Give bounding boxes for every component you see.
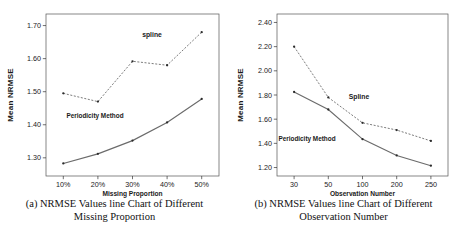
series-point-marker [97,100,99,102]
y-axis-tick-label: 1.20 [258,163,272,172]
series-point-marker [361,138,363,140]
x-axis-tick-label: 40% [160,180,175,189]
series-point-marker [396,129,398,131]
x-axis-tick-label: 250 [425,180,437,189]
series-point-marker [201,31,203,33]
y-axis-tick-label: 1.80 [258,91,272,100]
x-axis-tick-label: 30 [290,180,298,189]
y-axis-tick-label: 2.40 [258,18,272,27]
series-point-marker [201,98,203,100]
x-axis-tick-label: 30% [125,180,140,189]
series-line-2 [63,99,201,163]
x-axis-tick-label: 200 [391,180,403,189]
chart-b-caption-line2: Observation Number [229,211,458,224]
figure-two-panel-line-charts: 1.301.401.501.601.7010%20%30%40%50%Missi… [0,0,458,248]
y-axis-tick-label: 1.70 [27,21,41,30]
y-axis-tick-label: 1.60 [27,54,41,63]
chart-b-caption: (b) NRMSE Values line Chart of Different… [229,198,458,223]
panel-a: 1.301.401.501.601.7010%20%30%40%50%Missi… [0,0,229,248]
y-axis-tick-label: 1.40 [27,120,41,129]
y-axis-tick-label: 1.60 [258,115,272,124]
chart-a-caption: (a) NRMSE Values line Chart of Different… [0,198,229,223]
series-annotation-label: Periodicity Method [66,112,123,120]
series-line-2 [294,92,431,166]
chart-a-caption-line2: Missing Proportion [0,211,229,224]
series-point-marker [131,60,133,62]
series-point-marker [327,96,329,98]
chart-a-plot: 1.301.401.501.601.7010%20%30%40%50%Missi… [0,0,229,200]
chart-b-caption-line1: (b) NRMSE Values line Chart of Different [229,198,458,211]
series-point-marker [293,45,295,47]
y-axis-tick-label: 2.20 [258,42,272,51]
series-point-marker [166,121,168,123]
series-point-marker [131,139,133,141]
series-point-marker [62,162,64,164]
series-point-marker [430,165,432,167]
chart-b-plot: 1.201.401.601.802.002.202.40305010020025… [229,0,458,200]
series-point-marker [361,122,363,124]
y-axis-title: Mean NRMSE [6,68,15,122]
series-annotation-label: spline [142,31,162,39]
series-annotation-label: Spline [349,93,370,101]
series-point-marker [293,91,295,93]
series-annotation-label: Periodicity Method [278,135,335,143]
series-point-marker [97,153,99,155]
series-point-marker [396,154,398,156]
y-axis-tick-label: 1.50 [27,87,41,96]
series-point-marker [430,140,432,142]
x-axis-title: Missing Proportion [102,190,162,198]
y-axis-tick-label: 2.00 [258,66,272,75]
series-line-1 [63,32,201,101]
x-axis-title: Observation Number [330,190,396,197]
chart-a-caption-line1: (a) NRMSE Values line Chart of Different [0,198,229,211]
chart-b-canvas: 1.201.401.601.802.002.202.40305010020025… [229,0,458,200]
y-axis-tick-label: 1.40 [258,139,272,148]
x-axis-tick-label: 100 [357,180,369,189]
x-axis-tick-label: 20% [91,180,106,189]
panel-b: 1.201.401.601.802.002.202.40305010020025… [229,0,458,248]
series-point-marker [62,92,64,94]
chart-a-canvas: 1.301.401.501.601.7010%20%30%40%50%Missi… [0,0,229,200]
x-axis-tick-label: 50% [195,180,210,189]
series-point-marker [166,64,168,66]
series-point-marker [327,108,329,110]
x-axis-tick-label: 50 [324,180,332,189]
y-axis-tick-label: 1.30 [27,153,41,162]
y-axis-title: Mean NRMSE [236,68,245,122]
x-axis-tick-label: 10% [56,180,71,189]
